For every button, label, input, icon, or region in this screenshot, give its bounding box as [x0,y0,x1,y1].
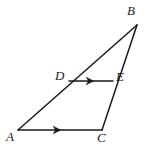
geometry-canvas [0,0,149,149]
vertex-label-b: B [127,4,135,17]
geometry-figure: A B C D E [0,0,149,149]
vertex-label-e: E [116,70,124,83]
vertex-label-c: C [97,131,106,144]
vertex-label-a: A [6,130,14,143]
vertex-label-d: D [55,69,64,82]
